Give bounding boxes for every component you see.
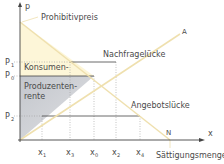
price-tick-p0: P 0 xyxy=(5,71,14,81)
y-axis-arrow-icon xyxy=(18,2,22,7)
svg-text:2: 2 xyxy=(11,116,14,122)
svg-text:4: 4 xyxy=(141,152,144,158)
svg-text:0: 0 xyxy=(95,152,98,158)
demand-gap-label: Nachfragelücke xyxy=(103,50,165,59)
quantity-tick-x1: x 1 xyxy=(38,148,46,158)
x-axis-arrow-icon xyxy=(199,138,205,142)
x-axis-label: x xyxy=(208,129,213,138)
supply-gap-label: Angebotslücke xyxy=(131,101,190,110)
price-tick-p2: P 2 xyxy=(5,112,14,122)
saturation-quantity-label: Sättigungsmenge xyxy=(156,151,224,160)
supply-curve-label: A xyxy=(182,28,187,36)
svg-text:0: 0 xyxy=(11,75,14,81)
y-axis-label: p xyxy=(25,2,30,11)
svg-text:2: 2 xyxy=(117,152,120,158)
price-tick-p1: P 1 xyxy=(5,58,14,68)
svg-text:P: P xyxy=(5,71,10,80)
prohibitive-price-label: Prohibitivpreis xyxy=(41,13,98,22)
quantity-tick-x0: x 0 xyxy=(90,148,98,158)
svg-text:1: 1 xyxy=(43,152,46,158)
market-equilibrium-diagram: p x A N Prohibitivpreis Nachfragelücke A… xyxy=(0,0,224,164)
producer-surplus-label-1: Produzenten- xyxy=(24,82,77,91)
prohibitive-price-pointer xyxy=(22,17,38,22)
quantity-tick-x3: x 3 xyxy=(66,148,74,158)
svg-text:3: 3 xyxy=(71,152,74,158)
svg-text:1: 1 xyxy=(11,62,14,68)
producer-surplus-label-2: rente xyxy=(24,92,45,101)
svg-text:P: P xyxy=(5,112,10,121)
svg-text:P: P xyxy=(5,58,10,67)
quantity-tick-x2: x 2 xyxy=(112,148,120,158)
demand-curve-label: N xyxy=(166,129,171,137)
quantity-tick-x4: x 4 xyxy=(136,148,144,158)
